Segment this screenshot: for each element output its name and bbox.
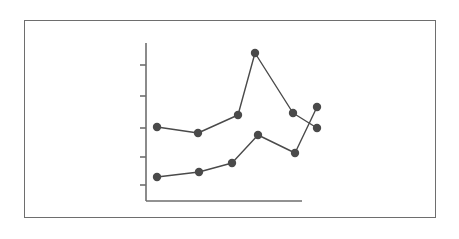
data-point-marker [153, 123, 161, 131]
data-point-marker [254, 131, 262, 139]
data-point-marker [194, 129, 202, 137]
data-point-marker [289, 109, 297, 117]
y-axis-ticks [140, 65, 146, 185]
data-point-marker [153, 173, 161, 181]
data-point-marker [228, 159, 236, 167]
data-point-marker [251, 49, 259, 57]
data-point-marker [313, 103, 321, 111]
data-point-marker [291, 149, 299, 157]
data-point-marker [195, 168, 203, 176]
series-1-markers [153, 49, 321, 137]
series-1-line [157, 53, 317, 133]
screenshot-root [0, 0, 459, 239]
data-point-marker [234, 111, 242, 119]
data-point-marker [313, 124, 321, 132]
series-1-group [153, 49, 321, 137]
line-chart-plot [0, 0, 459, 239]
